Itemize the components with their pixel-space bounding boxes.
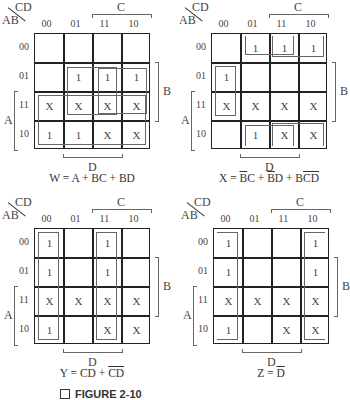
label-b: B [342, 279, 350, 294]
group-bc-prime-d [215, 66, 236, 116]
row-label: 01 [196, 70, 206, 81]
kmap-cell: X [272, 316, 301, 345]
kmap-cell: X [299, 92, 328, 121]
row-var-label: AB [181, 208, 198, 223]
group-bc [98, 68, 147, 114]
kmap-cell: X [241, 92, 270, 121]
kmap-cell [64, 229, 93, 258]
group-c-prime-d-prime [38, 232, 59, 340]
group-cd [96, 232, 117, 340]
label-a: A [181, 113, 190, 128]
bracket-b [155, 62, 159, 122]
equation-lhs: Z = [257, 367, 276, 379]
col-label: 11 [100, 213, 110, 224]
col-label: 10 [306, 18, 316, 29]
col-label: 10 [129, 18, 139, 29]
row-label: 10 [19, 323, 29, 334]
equation-term: BD [119, 172, 135, 184]
label-a: A [4, 113, 13, 128]
row-label: 00 [198, 236, 208, 247]
equation-lhs: X = [219, 172, 240, 184]
col-label: 10 [129, 213, 139, 224]
kmap-cell [212, 34, 241, 63]
kmap-cell [212, 121, 241, 150]
row-label: 11 [196, 99, 206, 110]
kmap-cell [299, 63, 328, 92]
group-b-prime-c-bot [272, 123, 324, 146]
col-label: 11 [277, 18, 287, 29]
equation-term: A [71, 172, 79, 184]
equation-term: + [255, 172, 267, 184]
figure-caption: FIGURE 2-10 [60, 388, 142, 400]
kmap-cell: X [272, 287, 301, 316]
equation-w: W = A + BC + BD [24, 172, 160, 184]
col-label: 01 [71, 18, 81, 29]
bracket-a [193, 286, 197, 346]
kmap-cell: X [270, 92, 299, 121]
bracket-d [240, 154, 300, 158]
equation-term: CD [303, 172, 319, 184]
equation-term: CD [80, 367, 96, 379]
kmap-cell [64, 258, 93, 287]
row-var-label: AB [2, 208, 19, 223]
col-label: 00 [42, 213, 52, 224]
label-a: A [183, 308, 192, 323]
label-a: A [4, 308, 13, 323]
equation-term: + [96, 367, 108, 379]
equation-term: B [295, 172, 303, 184]
equation-term: CD [108, 367, 124, 379]
kmap-cell: X [243, 287, 272, 316]
group-d-prime-right [304, 232, 325, 340]
kmap-cell [272, 229, 301, 258]
kmap-cell [243, 258, 272, 287]
kmap-cell [64, 316, 93, 345]
col-label: 01 [250, 213, 260, 224]
equation-term: B [267, 172, 275, 184]
bracket-b [155, 257, 159, 317]
label-b: B [163, 84, 171, 99]
bracket-d [63, 349, 123, 353]
row-label: 01 [19, 70, 29, 81]
row-label: 00 [196, 41, 206, 52]
kmap-cell [122, 229, 151, 258]
row-label: 11 [198, 294, 208, 305]
bracket-b [334, 257, 338, 317]
bracket-d [242, 349, 302, 353]
bracket-a [14, 91, 18, 151]
kmap-cell [272, 258, 301, 287]
equation-term: BC [91, 172, 106, 184]
group-b-prime-c-top [272, 36, 324, 57]
bracket-d [63, 154, 123, 158]
kmap-cell: X [122, 287, 151, 316]
equation-lhs: W = [49, 172, 71, 184]
kmap-cell [35, 63, 64, 92]
kmap-cell [241, 63, 270, 92]
caption-box-icon [60, 389, 70, 399]
col-label: 11 [279, 213, 289, 224]
row-label: 10 [19, 128, 29, 139]
bracket-a [14, 286, 18, 346]
equation-term: D [276, 367, 284, 379]
col-label: 00 [42, 18, 52, 29]
equation-x: X = BC + BD + BCD [201, 172, 337, 184]
kmap-cell: X [64, 287, 93, 316]
equation-term: D [275, 172, 283, 184]
kmap-cell [122, 258, 151, 287]
equation-term: + [283, 172, 295, 184]
equation-term: C [247, 172, 255, 184]
row-label: 00 [19, 236, 29, 247]
bracket-b [332, 62, 336, 122]
label-b: B [340, 84, 348, 99]
row-label: 01 [198, 265, 208, 276]
label-c: C [294, 0, 302, 15]
row-label: 10 [198, 323, 208, 334]
kmap-cell [93, 34, 122, 63]
kmap-cell [243, 316, 272, 345]
row-label: 00 [19, 41, 29, 52]
kmap-cell [243, 229, 272, 258]
caption-text: FIGURE 2-10 [75, 388, 142, 400]
row-var-label: AB [2, 13, 19, 28]
equation-z: Z = D [203, 367, 339, 379]
col-label: 00 [219, 18, 229, 29]
kmap-cell [270, 63, 299, 92]
